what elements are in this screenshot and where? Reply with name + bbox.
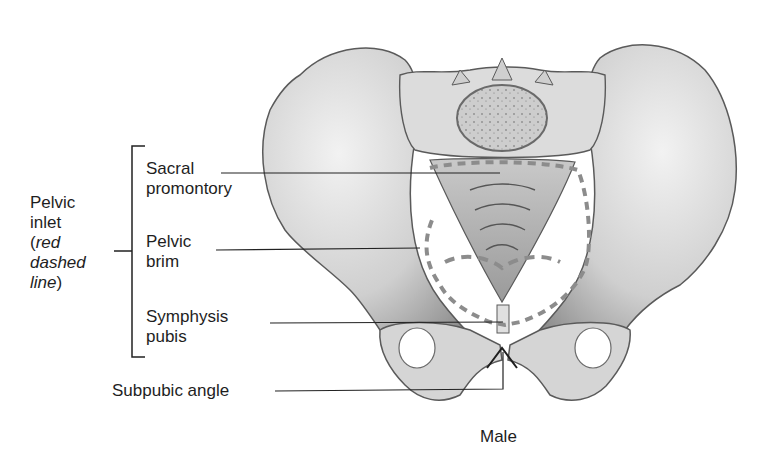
pelvic-inlet-bracket	[114, 146, 145, 357]
symphysis-pubis	[497, 305, 509, 333]
left-pubic-ramus	[380, 323, 502, 401]
pelvic-inlet-label: Pelvic inlet (red dashed line)	[30, 193, 86, 293]
pelvic-inlet-label-line4: dashed	[30, 253, 86, 273]
pelvic-inlet-label-line1: Pelvic	[30, 193, 86, 213]
leader-symphysis-pubis	[270, 322, 503, 323]
figure-caption: Male	[480, 427, 517, 447]
sacral-promontory-label: Sacral promontory	[146, 159, 232, 199]
right-obturator-foramen	[575, 328, 611, 368]
left-obturator-foramen	[399, 328, 435, 368]
pelvic-inlet-label-line5: line)	[30, 273, 86, 293]
pelvic-inlet-label-line3: (red	[30, 233, 86, 253]
subpubic-angle-label: Subpubic angle	[112, 381, 229, 401]
vertebral-body	[457, 85, 547, 151]
symphysis-pubis-label: Symphysis pubis	[146, 307, 228, 347]
pelvic-inlet-label-line2: inlet	[30, 213, 86, 233]
pelvic-brim-label: Pelvic brim	[146, 232, 191, 272]
right-pubic-ramus	[508, 323, 630, 401]
